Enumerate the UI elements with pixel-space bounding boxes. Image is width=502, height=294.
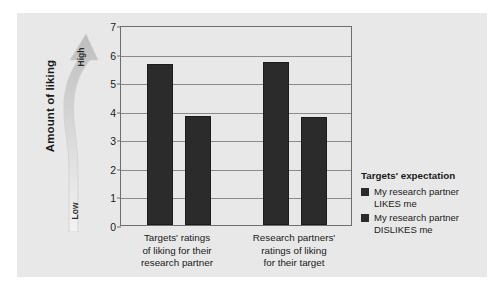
legend-label-line: LIKES me [374,198,417,209]
arrow-high-label: High [76,42,86,72]
legend-label-line: DISLIKES me [374,224,433,235]
x-axis-category-label: Targets' ratings of liking for their res… [124,232,230,270]
bar [301,117,327,225]
legend-swatch-icon [361,214,369,222]
category-line: research partner [124,257,230,270]
plot-area: 01234567 [120,26,352,226]
y-axis-title: Amount of liking [44,26,56,186]
arrow-low-label: Low [70,196,80,226]
legend-label-line: My research partner [374,212,459,223]
bar [185,116,211,225]
category-line: Targets' ratings [124,232,230,245]
gridline [121,56,351,57]
tick-mark [117,84,121,85]
legend-item: My research partner DISLIKES me [361,212,487,235]
legend-item-label: My research partner LIKES me [374,186,459,209]
category-line: Research partners' [240,232,348,245]
tick-mark [117,112,121,113]
bar [263,62,289,225]
chart-legend: Targets' expectation My research partner… [361,170,487,238]
legend-item: My research partner LIKES me [361,186,487,209]
liking-direction-arrow: High Low [56,20,100,232]
legend-swatch-icon [361,188,369,196]
tick-mark [117,141,121,142]
y-axis-tick-label: 2 [110,164,116,176]
legend-item-label: My research partner DISLIKES me [374,212,459,235]
y-axis-tick-label: 5 [110,78,116,90]
y-axis-tick-label: 6 [110,50,116,62]
bar [147,64,173,225]
tick-mark [117,227,121,228]
category-line: of liking for their [124,245,230,258]
tick-mark [117,169,121,170]
y-axis-tick-label: 4 [110,107,116,119]
tick-mark [117,198,121,199]
legend-label-line: My research partner [374,186,459,197]
y-axis-tick-label: 3 [110,135,116,147]
category-line: for their target [240,257,348,270]
tick-mark [117,55,121,56]
tick-mark [117,27,121,28]
y-axis-tick-label: 0 [110,221,116,233]
y-axis-tick-label: 7 [110,21,116,33]
x-axis-category-label: Research partners' ratings of liking for… [240,232,348,270]
y-axis-tick-label: 1 [110,192,116,204]
chart-figure: Amount of liking High Low 01234567 Targe… [0,0,502,294]
category-line: ratings of liking [240,245,348,258]
legend-title: Targets' expectation [361,170,487,181]
